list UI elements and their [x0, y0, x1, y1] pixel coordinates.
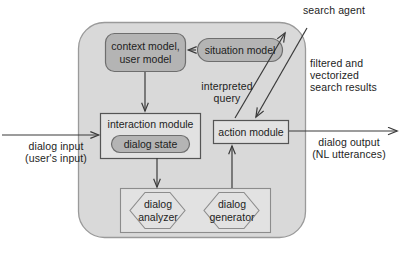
search-agent-label: search agent: [303, 4, 395, 16]
dialog-output-label: dialog output (NL utterances): [303, 136, 395, 160]
diagram-vector-layer: [0, 0, 400, 258]
dialog-state-node[interactable]: [112, 136, 190, 153]
context-model-node[interactable]: [106, 34, 186, 72]
diagram-canvas: context model, user model situation mode…: [0, 0, 400, 258]
action-module-node[interactable]: [214, 121, 289, 144]
dialog-input-label: dialog input (user's input): [12, 140, 100, 164]
search-results-label: filtered and vectorized search results: [310, 57, 398, 94]
interpreted-query-label: interpreted query: [196, 80, 258, 104]
